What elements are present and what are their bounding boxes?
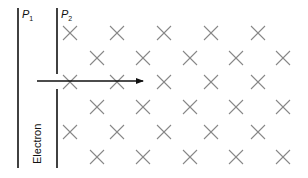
field-cross-icon: [90, 150, 104, 164]
field-cross-icon: [229, 150, 243, 164]
field-cross-icon: [229, 100, 243, 114]
field-cross-icon: [204, 75, 218, 89]
field-cross-icon: [63, 75, 77, 89]
field-cross-icon: [157, 26, 171, 40]
field-cross-icon: [204, 26, 218, 40]
field-cross-icon: [90, 100, 104, 114]
field-cross-icon: [110, 125, 124, 139]
field-cross-icon: [204, 125, 218, 139]
plate-p1-subscript: 1: [29, 15, 33, 22]
plate-p2-subscript: 2: [68, 15, 72, 22]
field-cross-icon: [251, 75, 265, 89]
field-cross-icon: [110, 26, 124, 40]
field-cross-icon: [90, 51, 104, 65]
field-diagram: [0, 0, 308, 178]
field-cross-icon: [183, 51, 197, 65]
field-cross-icon: [251, 26, 265, 40]
plate-p2-label: P2: [61, 8, 72, 22]
field-cross-icon: [63, 125, 77, 139]
field-cross-icon: [136, 51, 150, 65]
field-cross-icon: [136, 100, 150, 114]
field-cross-icon: [157, 125, 171, 139]
plate-p1-label: P1: [22, 8, 33, 22]
field-cross-icon: [276, 150, 290, 164]
field-cross-icon: [157, 75, 171, 89]
field-cross-icon: [251, 125, 265, 139]
field-cross-icon: [276, 100, 290, 114]
electron-label: Electron: [31, 124, 43, 164]
field-cross-icon: [110, 75, 124, 89]
field-cross-icon: [229, 51, 243, 65]
field-cross-icon: [276, 51, 290, 65]
diagram-canvas: P1 P2 Electron: [0, 0, 308, 178]
field-cross-icon: [63, 26, 77, 40]
magnetic-field-crosses: [63, 26, 290, 164]
field-cross-icon: [183, 100, 197, 114]
field-cross-icon: [183, 150, 197, 164]
field-cross-icon: [136, 150, 150, 164]
